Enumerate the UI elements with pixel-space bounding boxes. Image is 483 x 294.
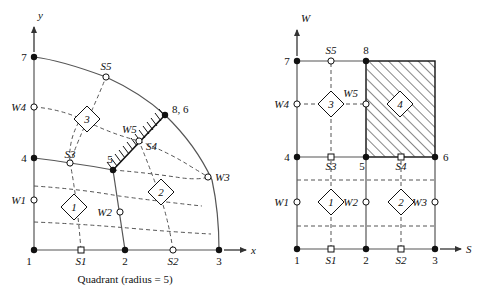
label-rW1: W1: [274, 196, 289, 208]
label-S5: S5: [101, 60, 113, 72]
label-S3: S3: [65, 148, 77, 160]
side-node-S4: [136, 138, 142, 144]
side-node-rS2: [398, 246, 404, 252]
label-rW3: W3: [412, 196, 427, 208]
node-2: [122, 247, 128, 253]
corner-nodes-left: [31, 54, 222, 253]
figure-caption: Quadrant (radius = 5): [77, 273, 172, 286]
side-node-rW2: [363, 199, 369, 205]
node-4: [31, 155, 37, 161]
side-node-S1: [78, 247, 84, 253]
element-diamond-1: 1: [61, 194, 87, 220]
node-r2: [363, 246, 369, 252]
label-node-2: 2: [122, 255, 128, 267]
element-diamond-2: 2: [148, 179, 174, 205]
figure-svg: y x: [0, 0, 483, 294]
label-node-8-6: 8, 6: [172, 103, 189, 115]
label-rS5: S5: [326, 44, 338, 56]
node-r8: [363, 58, 369, 64]
element-diamond-r2: 2: [388, 189, 414, 215]
w-axis-label: W: [301, 12, 311, 24]
node-r6: [432, 154, 438, 160]
element-label-r3: 3: [327, 98, 334, 110]
side-node-rW4: [294, 101, 300, 107]
right-panel-computational: W S 1: [274, 12, 472, 266]
label-node-r7: 7: [284, 55, 290, 67]
label-node-r2: 2: [363, 254, 369, 266]
label-S4: S4: [146, 140, 158, 152]
element-label-r1: 1: [328, 196, 334, 208]
label-rS2: S2: [396, 254, 408, 266]
x-axis-label: x: [250, 244, 256, 256]
left-panel-quadrant: y x: [11, 9, 256, 286]
side-node-rW5: [363, 101, 369, 107]
node-r3: [432, 246, 438, 252]
label-node-5: 5: [107, 153, 113, 165]
element-label-2: 2: [158, 186, 164, 198]
element-diamond-3: 3: [74, 106, 100, 132]
side-node-rS1: [328, 246, 334, 252]
label-node-r1: 1: [294, 254, 300, 266]
element-label-3: 3: [83, 113, 90, 125]
figure-root: y x: [0, 0, 483, 294]
side-node-S5: [103, 74, 109, 80]
label-node-r6: 6: [443, 151, 449, 163]
label-rW2: W2: [343, 196, 358, 208]
node-r1: [294, 246, 300, 252]
side-node-rS5: [328, 58, 334, 64]
element-label-1: 1: [71, 201, 77, 213]
side-node-S3: [67, 160, 73, 166]
node-r7: [294, 58, 300, 64]
element-label-r2: 2: [398, 196, 404, 208]
label-rW4: W4: [274, 98, 289, 110]
side-node-rW1: [294, 199, 300, 205]
label-rW5: W5: [343, 87, 358, 99]
node-5: [110, 167, 116, 173]
side-node-rW3: [432, 199, 438, 205]
side-node-W3: [205, 174, 211, 180]
node-1: [31, 247, 37, 253]
label-W5: W5: [122, 123, 137, 135]
label-W2: W2: [97, 206, 112, 218]
node-7: [31, 54, 37, 60]
label-node-r3: 3: [432, 254, 438, 266]
side-node-W1: [31, 197, 37, 203]
label-node-r5: 5: [359, 160, 365, 172]
label-rS4: S4: [396, 160, 408, 172]
side-node-W2: [117, 209, 123, 215]
label-rS1: S1: [326, 254, 337, 266]
node-3: [216, 247, 222, 253]
node-r4: [294, 154, 300, 160]
outer-arc: [34, 57, 219, 250]
label-node-r4: 4: [284, 151, 290, 163]
label-W1: W1: [11, 194, 26, 206]
element-diamond-r3: 3: [318, 91, 344, 117]
label-node-7: 7: [21, 51, 27, 63]
label-S1: S1: [76, 255, 87, 267]
label-node-3: 3: [216, 255, 222, 267]
label-W4: W4: [11, 101, 26, 113]
s-axis-label: S: [466, 243, 472, 255]
y-axis-label: y: [37, 9, 43, 21]
label-S2: S2: [168, 255, 180, 267]
side-node-S2: [170, 247, 176, 253]
element-diamond-r1: 1: [318, 189, 344, 215]
label-W3: W3: [215, 171, 230, 183]
label-node-r8: 8: [363, 44, 369, 56]
label-node-1: 1: [26, 255, 32, 267]
label-rS3: S3: [326, 160, 338, 172]
side-node-W4: [31, 104, 37, 110]
element-label-r4: 4: [397, 98, 403, 110]
node-8-6: [162, 112, 168, 118]
label-node-4: 4: [21, 152, 27, 164]
